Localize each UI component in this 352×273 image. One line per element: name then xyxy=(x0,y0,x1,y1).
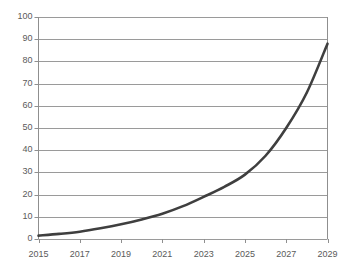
y-axis-label-100: 100 xyxy=(5,11,33,21)
x-axis-label-2021: 2021 xyxy=(142,249,182,259)
y-axis-label-90: 90 xyxy=(5,33,33,43)
x-axis-label-2027: 2027 xyxy=(266,249,306,259)
y-axis-label-40: 40 xyxy=(5,144,33,154)
chart-canvas xyxy=(0,0,352,273)
y-axis-label-10: 10 xyxy=(5,211,33,221)
x-axis-label-2019: 2019 xyxy=(101,249,141,259)
x-axis-label-2017: 2017 xyxy=(60,249,100,259)
y-axis-label-80: 80 xyxy=(5,55,33,65)
y-axis-label-60: 60 xyxy=(5,100,33,110)
line-chart: 0102030405060708090100 20152017201920212… xyxy=(0,0,352,273)
y-axis-label-50: 50 xyxy=(5,122,33,132)
y-axis-label-0: 0 xyxy=(5,233,33,243)
x-axis-label-2025: 2025 xyxy=(225,249,265,259)
y-tick-mark-group xyxy=(35,18,39,240)
x-axis-label-2015: 2015 xyxy=(19,249,59,259)
x-axis-label-2029: 2029 xyxy=(308,249,348,259)
y-axis-label-20: 20 xyxy=(5,189,33,199)
y-axis-label-70: 70 xyxy=(5,78,33,88)
x-axis-label-2023: 2023 xyxy=(184,249,224,259)
data-series-line xyxy=(39,44,328,236)
y-axis-label-30: 30 xyxy=(5,166,33,176)
